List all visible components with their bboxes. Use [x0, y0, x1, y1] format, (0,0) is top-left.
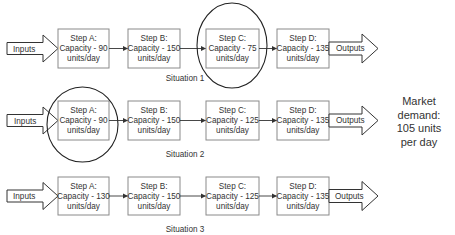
step-c-box: Step C: Capacity - 75 units/day — [206, 29, 259, 68]
step-name: Step C: — [219, 34, 246, 43]
step-d-box: Step D: Capacity - 135 units/day — [277, 29, 330, 68]
step-unit: units/day — [67, 202, 101, 211]
step-unit: units/day — [216, 202, 250, 211]
demand-line: 105 units — [380, 122, 455, 136]
situation-3: Inputs Step A: Capacity - 130 units/day … — [7, 177, 378, 234]
step-capacity: Capacity - 125 — [206, 116, 259, 125]
inputs-arrow: Inputs — [7, 35, 58, 62]
step-capacity: Capacity - 75 — [208, 44, 257, 53]
step-capacity: Capacity - 90 — [59, 44, 108, 53]
step-c-box: Step C: Capacity - 125 units/day — [206, 177, 259, 215]
step-unit: units/day — [287, 202, 321, 211]
step-capacity: Capacity - 125 — [206, 192, 259, 201]
step-name: Step A: — [70, 106, 96, 115]
step-capacity: Capacity - 150 — [128, 44, 181, 53]
step-capacity: Capacity - 90 — [59, 116, 108, 125]
step-unit: units/day — [216, 126, 250, 135]
step-capacity: Capacity - 150 — [128, 116, 181, 125]
inputs-arrow: Inputs — [7, 107, 58, 134]
step-name: Step B: — [141, 106, 168, 115]
step-a-box: Step A: Capacity - 130 units/day — [57, 177, 110, 215]
step-name: Step A: — [70, 34, 96, 43]
step-capacity: Capacity - 150 — [128, 192, 181, 201]
inputs-label: Inputs — [13, 192, 35, 201]
step-name: Step A: — [70, 182, 96, 191]
step-unit: units/day — [287, 54, 321, 63]
step-unit: units/day — [216, 54, 250, 63]
step-b-box: Step B: Capacity - 150 units/day — [128, 101, 181, 140]
demand-line: Market — [380, 95, 455, 109]
situation-label: Situation 1 — [166, 74, 205, 83]
situation-label: Situation 3 — [166, 225, 205, 234]
situation-label: Situation 2 — [166, 150, 205, 159]
outputs-arrow: Outputs — [329, 182, 378, 211]
step-capacity: Capacity - 135 — [277, 116, 330, 125]
inputs-label: Inputs — [13, 45, 35, 54]
outputs-arrow: Outputs — [329, 106, 378, 135]
inputs-arrow: Inputs — [7, 183, 58, 210]
demand-line: per day — [380, 136, 455, 150]
inputs-label: Inputs — [14, 117, 36, 126]
market-demand-note: Market demand: 105 units per day — [380, 95, 455, 149]
step-a-box: Step A: Capacity - 90 units/day — [58, 29, 109, 68]
situation-1: Inputs Step A: Capacity - 90 units/day S… — [7, 3, 378, 88]
step-name: Step D: — [289, 34, 316, 43]
step-name: Step B: — [141, 182, 168, 191]
outputs-arrow: Outputs — [329, 34, 378, 63]
step-unit: units/day — [138, 54, 172, 63]
step-unit: units/day — [287, 126, 321, 135]
situation-2: Inputs Step A: Capacity - 90 units/day S… — [7, 87, 378, 162]
step-name: Step D: — [289, 182, 316, 191]
step-unit: units/day — [67, 126, 101, 135]
outputs-label: Outputs — [336, 44, 365, 53]
step-a-box: Step A: Capacity - 90 units/day — [58, 101, 109, 140]
step-capacity: Capacity - 135 — [277, 192, 330, 201]
step-d-box: Step D: Capacity - 135 units/day — [277, 177, 330, 215]
step-d-box: Step D: Capacity - 135 units/day — [277, 101, 330, 140]
step-name: Step C: — [219, 106, 246, 115]
outputs-label: Outputs — [336, 116, 365, 125]
step-name: Step C: — [219, 182, 246, 191]
outputs-label: Outputs — [335, 192, 364, 201]
step-c-box: Step C: Capacity - 125 units/day — [206, 101, 259, 140]
step-name: Step B: — [141, 34, 168, 43]
demand-line: demand: — [380, 109, 455, 123]
step-name: Step D: — [289, 106, 316, 115]
step-unit: units/day — [138, 202, 172, 211]
step-unit: units/day — [67, 54, 101, 63]
step-capacity: Capacity - 135 — [277, 44, 330, 53]
step-unit: units/day — [138, 126, 172, 135]
step-b-box: Step B: Capacity - 150 units/day — [128, 29, 181, 68]
step-capacity: Capacity - 130 — [57, 192, 110, 201]
step-b-box: Step B: Capacity - 150 units/day — [128, 177, 181, 215]
